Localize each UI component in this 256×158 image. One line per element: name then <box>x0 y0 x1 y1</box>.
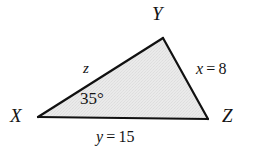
angle-label-x: 35° <box>80 90 104 107</box>
side-label-y: y = 15 <box>96 129 135 145</box>
side-label-y-variable: y <box>96 128 103 145</box>
side-label-x-equals-sign: = <box>206 60 215 77</box>
side-label-y-equals-sign: = <box>106 128 115 145</box>
side-label-z: z <box>83 61 89 76</box>
vertex-label-x: X <box>10 106 22 125</box>
vertex-label-z: Z <box>222 106 233 125</box>
vertex-label-y: Y <box>152 4 163 23</box>
side-label-y-value: 15 <box>119 128 135 145</box>
side-label-x: x = 8 <box>196 61 227 77</box>
side-label-x-value: 8 <box>219 60 227 77</box>
